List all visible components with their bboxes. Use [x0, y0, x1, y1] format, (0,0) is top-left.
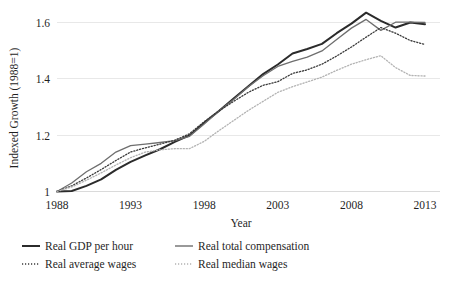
y-tick-label-1: 1	[44, 186, 50, 198]
series-line-real-total-compensation	[57, 19, 425, 191]
legend-item-real-median-wages[interactable]: Real median wages	[175, 258, 288, 271]
series-group	[57, 13, 425, 192]
x-tick-label-2008: 2008	[340, 199, 363, 211]
y-tick-label-1.4: 1.4	[36, 73, 51, 85]
y-axis-title: Indexed Growth (1988=1)	[8, 47, 21, 168]
y-tick-labels: 1.6 1.4 1.2 1	[36, 17, 51, 198]
legend-label: Real GDP per hour	[45, 240, 133, 253]
x-axis-title: Year	[230, 217, 251, 229]
legend-label: Real average wages	[45, 258, 137, 271]
x-tick-label-2003: 2003	[266, 199, 289, 211]
chart-figure: Indexed Growth (1988=1) 1.6 1.4 1.2 1 19…	[0, 0, 456, 289]
series-line-real-gdp-per-hour	[57, 13, 425, 192]
line-chart-canvas: Indexed Growth (1988=1) 1.6 1.4 1.2 1 19…	[0, 0, 456, 289]
x-tick-label-1993: 1993	[119, 199, 142, 211]
x-tick-label-1988: 1988	[46, 199, 69, 211]
legend-label: Real total compensation	[198, 240, 309, 253]
y-tick-label-1.2: 1.2	[36, 130, 51, 142]
x-tick-label-2013: 2013	[414, 199, 437, 211]
legend-item-real-average-wages[interactable]: Real average wages	[22, 258, 137, 271]
chart-legend: Real GDP per hour Real total compensatio…	[22, 240, 309, 271]
x-tick-label-1998: 1998	[193, 199, 216, 211]
x-tick-labels: 1988 1993 1998 2003 2008 2013	[46, 199, 437, 211]
y-tick-label-1.6: 1.6	[36, 17, 51, 29]
legend-item-real-gdp-per-hour[interactable]: Real GDP per hour	[22, 240, 133, 253]
legend-label: Real median wages	[198, 258, 288, 271]
legend-item-real-total-compensation[interactable]: Real total compensation	[175, 240, 309, 253]
